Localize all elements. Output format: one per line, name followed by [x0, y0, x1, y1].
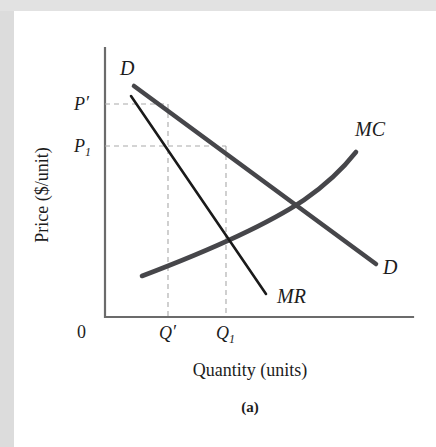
quantity-low-tick-label: Q′ — [159, 322, 177, 343]
chart-axes — [105, 48, 413, 317]
economics-chart: D D MC MR P′ P1 Q′ Q1 0 Quantity (units)… — [0, 0, 436, 447]
figure-page: D D MC MR P′ P1 Q′ Q1 0 Quantity (units)… — [0, 0, 436, 447]
price-high-tick-label: P′ — [73, 93, 90, 114]
demand-curve — [134, 86, 376, 264]
figure-caption: (a) — [241, 399, 259, 416]
x-axis-title: Quantity (units) — [193, 360, 308, 381]
origin-label: 0 — [77, 322, 86, 342]
demand-upper-label: D — [119, 57, 135, 79]
y-axis-title: Price ($/unit) — [32, 147, 53, 242]
demand-lower-label: D — [382, 256, 398, 278]
marginal-revenue-label: MR — [276, 285, 306, 307]
marginal-revenue-curve — [131, 96, 266, 294]
price-low-tick-label: P1 — [73, 136, 91, 159]
quantity-high-tick-label: Q1 — [216, 323, 235, 346]
marginal-cost-label: MC — [354, 118, 386, 140]
